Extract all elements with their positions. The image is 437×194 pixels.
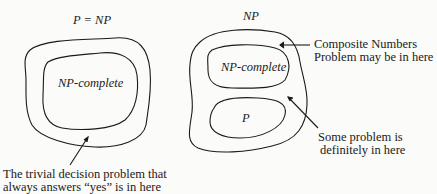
left-arrow [70,137,88,165]
right-top-annotation-line2: Problem may be in here [314,51,433,64]
left-title: P = NP [73,14,111,27]
right-npcomplete-label: NP-complete [221,61,286,74]
left-npcomplete-label: NP-complete [58,77,123,90]
left-annotation-line2: always answers “yes” is in here [3,181,161,194]
diagram-canvas [0,0,437,194]
right-p-label: P [242,112,250,125]
right-bottom-annotation-line2: definitely in here [320,144,405,157]
right-outer-region [189,30,307,152]
left-inner-region [43,53,138,130]
right-title: NP [243,10,259,23]
